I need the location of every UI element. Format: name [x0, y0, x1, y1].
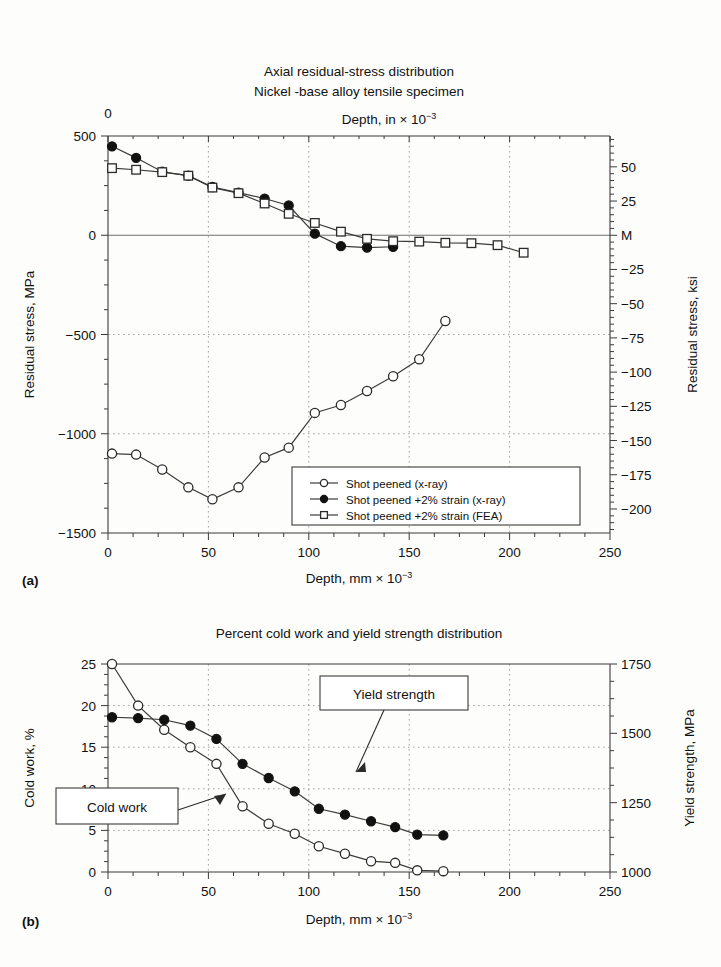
- data-point: [160, 725, 169, 734]
- legend-marker-open-square: [321, 512, 328, 519]
- data-point: [311, 219, 320, 228]
- figure-a-residual-stress: Axial residual-stress distributionNickel…: [0, 46, 721, 612]
- data-point: [212, 734, 221, 743]
- figure-b-panel-label: (b): [22, 914, 39, 929]
- y-right-tick-label: −100: [621, 365, 651, 380]
- y-right-tick-label: −50: [621, 297, 644, 312]
- data-point: [310, 408, 319, 417]
- data-point: [234, 189, 243, 198]
- data-point: [340, 849, 349, 858]
- data-point: [310, 229, 319, 238]
- data-point: [441, 316, 450, 325]
- data-point: [290, 787, 299, 796]
- data-point: [260, 199, 269, 208]
- data-point: [260, 453, 269, 462]
- y-left-tick-label: 0: [88, 865, 96, 880]
- arrowhead: [356, 762, 366, 772]
- data-point: [208, 495, 217, 504]
- y-right-tick-label: −200: [621, 502, 651, 517]
- figure-a-y-left-label: Residual stress, MPa: [22, 270, 37, 398]
- data-point: [134, 713, 143, 722]
- data-point: [284, 210, 293, 219]
- data-point: [132, 165, 141, 174]
- y-right-tick-label: M: [621, 228, 632, 243]
- data-point: [413, 830, 422, 839]
- data-point: [391, 822, 400, 831]
- cold-work-callout-label: Cold work: [87, 800, 147, 815]
- y-right-tick-label: 1500: [621, 726, 651, 741]
- data-point: [314, 842, 323, 851]
- y-left-tick-label: 20: [81, 699, 96, 714]
- x-tick-label: 250: [599, 545, 622, 560]
- figure-a-top-axis-tick: 0: [104, 106, 112, 121]
- figure-b-y-left-label: Cold work, %: [22, 728, 37, 808]
- data-point: [158, 168, 167, 177]
- y-left-tick-label: 0: [88, 228, 96, 243]
- figure-b-title: Percent cold work and yield strength dis…: [216, 626, 503, 641]
- x-tick-label: 100: [298, 545, 321, 560]
- data-point: [158, 465, 167, 474]
- arrowhead: [214, 794, 226, 805]
- data-point: [366, 857, 375, 866]
- legend-label: Shot peened +2% strain (x-ray): [346, 494, 506, 506]
- data-point: [107, 449, 116, 458]
- figure-a-title-line2: Nickel -base alloy tensile specimen: [254, 84, 464, 99]
- yield-strength-callout-arrow: [356, 710, 384, 772]
- data-point: [212, 759, 221, 768]
- series-line: [112, 146, 393, 247]
- data-point: [415, 355, 424, 364]
- y-right-tick-label: 50: [621, 160, 636, 175]
- x-tick-label: 200: [498, 884, 521, 899]
- legend-marker-filled-circle: [320, 495, 327, 502]
- data-point: [362, 243, 371, 252]
- y-left-tick-label: −500: [66, 328, 96, 343]
- data-point: [107, 659, 116, 668]
- data-point: [107, 713, 116, 722]
- series-line: [112, 168, 524, 253]
- data-point: [132, 450, 141, 459]
- x-tick-label: 250: [599, 884, 622, 899]
- data-point: [389, 237, 398, 246]
- y-right-tick-label: −25: [621, 262, 644, 277]
- data-point: [264, 773, 273, 782]
- data-point: [234, 483, 243, 492]
- figure-a-svg: Axial residual-stress distributionNickel…: [0, 46, 721, 612]
- data-point: [186, 721, 195, 730]
- data-point: [134, 701, 143, 710]
- data-point: [208, 183, 217, 192]
- figure-a-y-right-label: Residual stress, ksi: [685, 276, 700, 392]
- data-point: [413, 866, 422, 875]
- x-tick-label: 0: [104, 545, 112, 560]
- y-left-tick-label: −1000: [58, 427, 96, 442]
- figure-b-svg: Percent cold work and yield strength dis…: [0, 612, 721, 952]
- y-left-tick-label: 5: [88, 823, 96, 838]
- data-point: [441, 238, 450, 247]
- figure-a-panel-label: (a): [22, 573, 39, 588]
- figure-b-y-right-label: Yield strength, MPa: [682, 709, 697, 827]
- data-point: [415, 237, 424, 246]
- x-tick-label: 150: [398, 884, 421, 899]
- x-tick-label: 150: [398, 545, 421, 560]
- data-point: [238, 759, 247, 768]
- yield-strength-callout-label: Yield strength: [353, 687, 435, 702]
- x-tick-label: 200: [498, 545, 521, 560]
- data-point: [336, 400, 345, 409]
- y-right-tick-label: 1250: [621, 796, 651, 811]
- data-point: [467, 239, 476, 248]
- data-point: [107, 142, 116, 151]
- data-point: [160, 715, 169, 724]
- data-point: [132, 153, 141, 162]
- legend-marker-open-circle: [320, 479, 327, 486]
- data-point: [314, 804, 323, 813]
- data-point: [337, 227, 346, 236]
- legend-label: Shot peened +2% strain (FEA): [346, 510, 502, 522]
- data-point: [366, 817, 375, 826]
- y-left-tick-label: 500: [73, 129, 96, 144]
- figure-page: Axial residual-stress distributionNickel…: [0, 0, 721, 967]
- data-point: [184, 171, 193, 180]
- data-point: [186, 743, 195, 752]
- y-right-tick-label: 25: [621, 194, 636, 209]
- data-point: [389, 372, 398, 381]
- y-left-tick-label: 15: [81, 740, 96, 755]
- figure-a-x-axis-label: Depth, mm × 10−3: [306, 570, 413, 586]
